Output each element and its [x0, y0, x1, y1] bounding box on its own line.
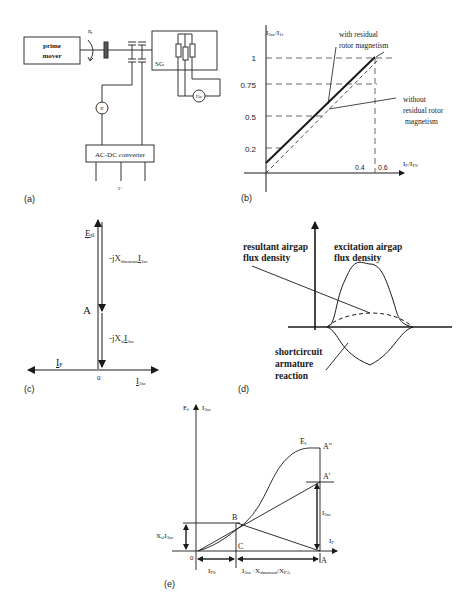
c-x-dm-label: -jXdmunsatI3sc [109, 253, 148, 264]
d-armature-label: shortcircuit [275, 347, 323, 357]
e-point-a1: A' [323, 472, 331, 481]
c-e-label: Esl [85, 228, 95, 238]
prime-mover-label: prime [43, 42, 61, 50]
c-x-sl-label: -jXslI3sc [109, 333, 135, 344]
d-excitation-label-2: flux density [334, 253, 381, 263]
annot-with-residual: with residual [339, 30, 378, 39]
d-armature-label-2: armature [275, 359, 313, 369]
e-point-a: A [321, 556, 327, 565]
annot-with-residual-2: rotor magnetism [339, 41, 389, 50]
e-point-c: C [238, 542, 243, 551]
el-curve [198, 448, 316, 551]
c-if-label: IF [56, 357, 63, 368]
panel-c-label: (c) [24, 384, 35, 394]
d-armature-label-3: reaction [275, 371, 309, 381]
curve-with-residual [266, 57, 375, 163]
speed-label: nr [88, 28, 93, 35]
b-y-axis-label: I3sc/I1r [266, 29, 284, 37]
ammeter-field-label: IF [100, 106, 104, 111]
annot-without-residual: without [403, 95, 427, 104]
figure-canvas: prime mover nr SG IF I3sc AC-DC converte… [0, 0, 476, 603]
e-i3sc-label: I3sc [322, 509, 332, 517]
d-resultant-label: resultant airgap [243, 242, 308, 252]
e-bottom-expr: I3sc ·Xdmunsat/XFA [242, 567, 291, 575]
generator-label: SG [155, 60, 164, 68]
e-y1-label: El [183, 404, 189, 412]
prime-mover-label-2: mover [42, 52, 61, 60]
d-excitation-label: excitation airgap [334, 242, 402, 252]
b-xtick-04: 0.4 [355, 164, 365, 171]
excitation-curve [327, 262, 413, 327]
panel-c-phasor [28, 220, 158, 370]
e-point-b: B [232, 513, 237, 522]
b-ytick-1: 1 [252, 54, 257, 63]
c-point-a: A [83, 304, 91, 316]
panel-e-construction [172, 405, 337, 570]
e-origin: 0 [190, 554, 194, 562]
e-xsl-label: XslI3sc [156, 532, 174, 540]
panel-a-label: (a) [24, 194, 35, 204]
b-ytick-075: 0.75 [240, 81, 256, 90]
panel-b-label: (b) [241, 193, 252, 203]
annot-without-residual-2: residual rotor [403, 106, 444, 115]
ammeter-sc-label: I3sc [196, 94, 203, 99]
armature-curve [327, 327, 413, 365]
panel-d-label: (d) [238, 384, 249, 394]
panel-e-label: (e) [164, 579, 175, 589]
b-xtick-06: 0.6 [378, 164, 388, 171]
e-point-a2: A" [323, 442, 332, 451]
e-if-label: IF [329, 537, 334, 545]
b-x-axis-label: IF/IF0 [403, 160, 418, 168]
annot-without-residual-3: magnetism [405, 117, 438, 126]
curve-without-residual [266, 60, 378, 173]
d-resultant-label-2: flux density [243, 253, 290, 263]
b-ytick-02: 0.2 [245, 145, 257, 154]
coupling [104, 42, 108, 58]
converter-label: AC-DC converter [95, 151, 146, 159]
e-curve-label: El [300, 437, 307, 446]
e-y2-label: I3sc [202, 404, 212, 412]
c-i3sc-label: I3sc [136, 376, 146, 386]
e-if0-label: IF0 [208, 567, 216, 575]
supply-label: 3~ [117, 186, 123, 191]
b-ytick-05: 0.5 [245, 113, 257, 122]
c-origin: 0 [97, 374, 101, 382]
